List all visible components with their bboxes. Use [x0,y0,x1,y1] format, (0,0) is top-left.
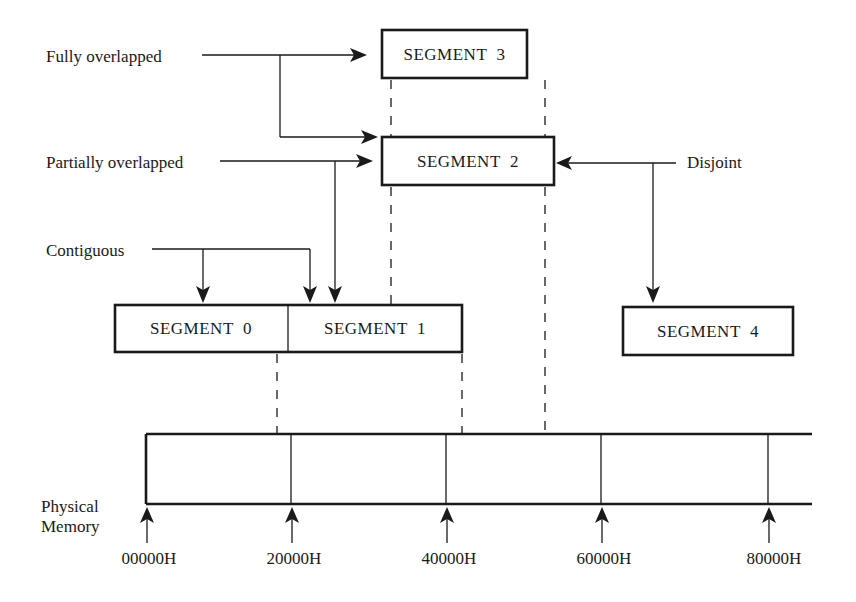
segment-0-label: SEGMENT 0 [150,319,252,338]
fully-overlapped-arrows [202,48,378,144]
segmentation-diagram: SEGMENT 3 SEGMENT 2 SEGMENT 0 SEGMENT 1 … [0,0,856,602]
fully-overlapped-label: Fully overlapped [46,47,162,66]
segment-2-label: SEGMENT 2 [417,152,519,171]
address-markers [140,507,776,543]
segment-3: SEGMENT 3 [382,30,527,78]
partially-overlapped-arrows [220,154,373,303]
address-20000h: 20000H [267,549,322,568]
contiguous-arrows [152,249,317,303]
address-40000h: 40000H [422,549,477,568]
segment-3-label: SEGMENT 3 [404,45,506,64]
disjoint-arrows [556,156,676,303]
address-80000h: 80000H [747,549,802,568]
segment-0-1: SEGMENT 0 SEGMENT 1 [115,305,462,352]
address-00000h: 00000H [122,549,177,568]
partially-overlapped-label: Partially overlapped [46,153,184,172]
address-60000h: 60000H [577,549,632,568]
segment-2: SEGMENT 2 [382,137,554,185]
segment-4: SEGMENT 4 [623,307,793,355]
physical-memory-bar [146,434,812,504]
segment-1-label: SEGMENT 1 [324,319,426,338]
physical-memory-label-line1: Physical [41,497,99,516]
physical-memory-label-line2: Memory [41,517,100,536]
contiguous-label: Contiguous [46,241,124,260]
disjoint-label: Disjoint [687,153,742,172]
projection-lines [277,80,545,433]
segment-4-label: SEGMENT 4 [657,322,759,341]
